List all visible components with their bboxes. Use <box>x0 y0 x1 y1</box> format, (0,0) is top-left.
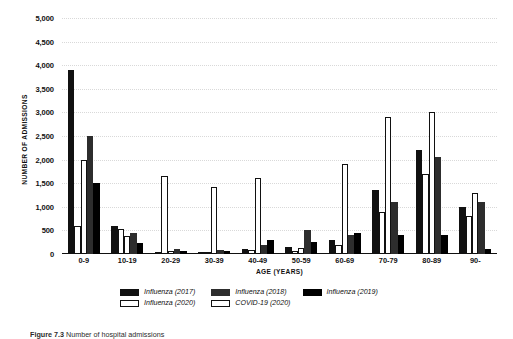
legend-item-influenza-2020-[interactable]: Influenza (2020) <box>120 299 195 307</box>
bar-20-29-influenza-2019- <box>180 251 186 254</box>
bar-group-80-89 <box>410 18 454 254</box>
y-axis-tick-500: 500 <box>42 226 54 235</box>
y-axis-tick-3000: 3,000 <box>35 108 54 117</box>
y-axis-title: NUMBER OF ADMISSIONS <box>21 40 28 240</box>
legend-swatch-icon <box>120 289 139 296</box>
legend-label: COVID-19 (2020) <box>235 299 290 307</box>
y-axis-tick-1000: 1,000 <box>35 202 54 211</box>
bar-90--influenza-2019- <box>485 249 491 254</box>
legend-swatch-icon <box>303 289 322 296</box>
legend-row-secondary: Influenza (2020)COVID-19 (2020) <box>120 299 410 307</box>
y-axis-tick-4000: 4,000 <box>35 61 54 70</box>
bar-90--influenza-2018- <box>478 202 484 254</box>
bar-40-49-covid-19-2020- <box>255 178 261 254</box>
bar-40-49-influenza-2019- <box>267 240 273 254</box>
legend-item-influenza-2019-[interactable]: Influenza (2019) <box>303 288 378 296</box>
bar-group-20-29 <box>149 18 193 254</box>
x-axis-title: AGE (YEARS) <box>62 268 497 275</box>
legend-label: Influenza (2018) <box>235 288 286 296</box>
y-axis-tick-2000: 2,000 <box>35 155 54 164</box>
figure-caption-label: Figure 7.3 <box>30 330 64 339</box>
legend-item-covid-19-2020-[interactable]: COVID-19 (2020) <box>211 299 290 307</box>
bar-30-39-influenza-2019- <box>224 251 230 254</box>
bar-group-10-19 <box>106 18 150 254</box>
y-axis-tick-3500: 3,500 <box>35 84 54 93</box>
y-axis-tick-2500: 2,500 <box>35 132 54 141</box>
bar-30-39-covid-19-2020- <box>211 187 217 254</box>
chart-plot-area <box>62 18 497 254</box>
bar-group-30-39 <box>193 18 237 254</box>
legend-swatch-icon <box>211 289 230 296</box>
bar-80-89-influenza-2019- <box>441 235 447 254</box>
chart-legend: Influenza (2017)Influenza (2018)Influenz… <box>120 288 410 310</box>
y-axis-tick-5000: 5,000 <box>35 14 54 23</box>
legend-row-primary: Influenza (2017)Influenza (2018)Influenz… <box>120 288 410 296</box>
bar-groups <box>62 18 497 254</box>
legend-swatch-icon <box>120 300 139 307</box>
legend-swatch-icon <box>211 300 230 307</box>
bar-50-59-influenza-2019- <box>311 242 317 254</box>
bar-group-0-9 <box>62 18 106 254</box>
bar-group-40-49 <box>236 18 280 254</box>
bar-70-79-influenza-2019- <box>398 235 404 254</box>
figure-caption-text: Number of hospital admissions <box>66 330 164 339</box>
bar-group-50-59 <box>280 18 324 254</box>
y-axis-tick-0: 0 <box>50 250 54 259</box>
bar-0-9-influenza-2019- <box>93 183 99 254</box>
y-axis-tick-4500: 4,500 <box>35 37 54 46</box>
legend-item-influenza-2018-[interactable]: Influenza (2018) <box>211 288 286 296</box>
legend-label: Influenza (2017) <box>144 288 195 296</box>
figure-caption: Figure 7.3 Number of hospital admissions <box>30 330 500 339</box>
bar-group-90- <box>454 18 498 254</box>
y-axis: NUMBER OF ADMISSIONS 05001,0001,5002,000… <box>0 18 58 254</box>
legend-item-influenza-2017-[interactable]: Influenza (2017) <box>120 288 195 296</box>
bar-group-70-79 <box>367 18 411 254</box>
y-axis-tick-1500: 1,500 <box>35 179 54 188</box>
bar-group-60-69 <box>323 18 367 254</box>
bar-10-19-influenza-2019- <box>137 243 143 254</box>
legend-label: Influenza (2019) <box>327 288 378 296</box>
bar-20-29-influenza-2020- <box>161 176 167 254</box>
bar-60-69-influenza-2019- <box>354 233 360 254</box>
figure-container: NUMBER OF ADMISSIONS 05001,0001,5002,000… <box>0 0 513 339</box>
legend-label: Influenza (2020) <box>144 299 195 307</box>
